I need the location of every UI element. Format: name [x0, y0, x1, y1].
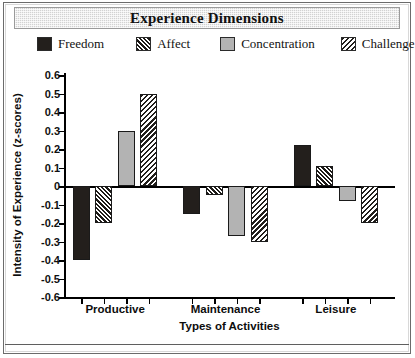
- y-axis-tick-label: -0.1: [26, 199, 60, 211]
- y-axis-tick-label: -0.2: [26, 217, 60, 229]
- y-axis-tick: [59, 297, 65, 299]
- x-axis-category-label: Maintenance: [191, 303, 261, 315]
- bar-leisure-freedom: [294, 145, 311, 186]
- y-axis-tick: [59, 279, 65, 281]
- y-axis-tick-label: 0.1: [26, 162, 60, 174]
- x-axis-category-label: Leisure: [315, 303, 356, 315]
- y-axis-tick-labels: 0.60.50.40.30.20.10-0.1-0.2-0.3-0.4-0.5-…: [26, 68, 60, 302]
- y-axis-tick-label: 0.6: [26, 69, 60, 81]
- y-axis-tick-label: 0.4: [26, 106, 60, 118]
- bar-productive-freedom: [73, 186, 90, 260]
- bar-productive-concentration: [118, 131, 135, 187]
- y-axis-tick-label: 0.3: [26, 125, 60, 137]
- x-axis-tick-labels: ProductiveMaintenanceLeisure: [64, 303, 395, 319]
- y-axis-tick-label: -0.5: [26, 273, 60, 285]
- bar-productive-challenge: [140, 94, 157, 187]
- bar-maintenance-affect: [206, 186, 223, 195]
- y-axis-tick: [59, 75, 65, 77]
- bar-maintenance-challenge: [251, 186, 268, 242]
- y-axis-tick-label: -0.3: [26, 236, 60, 248]
- bar-maintenance-freedom: [183, 186, 200, 214]
- y-axis-tick: [59, 205, 65, 207]
- bar-productive-affect: [95, 186, 112, 223]
- y-axis-tick-label: 0.2: [26, 143, 60, 155]
- y-axis-tick-label: -0.6: [26, 291, 60, 303]
- bar-leisure-challenge: [361, 186, 378, 223]
- y-axis-tick: [59, 149, 65, 151]
- axes-region: [64, 75, 394, 297]
- y-axis-tick: [59, 186, 65, 188]
- bar-leisure-concentration: [339, 186, 356, 201]
- y-axis-tick: [59, 131, 65, 133]
- x-axis-category-label: Productive: [85, 303, 144, 315]
- x-axis-line: [64, 297, 395, 299]
- y-axis-tick-label: 0.5: [26, 88, 60, 100]
- y-axis-title: Intensity of Experience (z-scores): [8, 72, 26, 298]
- y-axis-tick-label: 0: [26, 180, 60, 192]
- y-axis-title-text: Intensity of Experience (z-scores): [11, 93, 23, 276]
- y-axis-tick: [59, 94, 65, 96]
- y-axis-tick: [59, 242, 65, 244]
- bar-maintenance-concentration: [228, 186, 245, 236]
- y-axis-tick-label: -0.4: [26, 254, 60, 266]
- x-axis-title: Types of Activities: [64, 320, 395, 332]
- y-axis-tick: [59, 223, 65, 225]
- y-axis-tick: [59, 112, 65, 114]
- footer-divider: [5, 344, 409, 345]
- y-axis-tick: [59, 260, 65, 262]
- bar-leisure-affect: [316, 166, 333, 186]
- y-axis-tick: [59, 168, 65, 170]
